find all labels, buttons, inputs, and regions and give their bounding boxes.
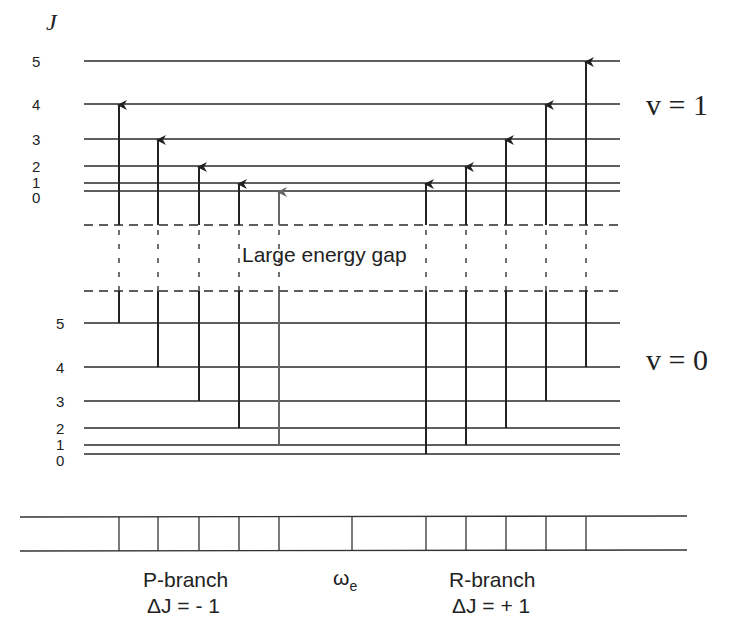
upper-j-label-5: 5 [32,53,40,70]
lower-j-label-4: 4 [56,359,64,376]
lower-j-label-5: 5 [56,315,64,332]
p-branch-rule: ΔJ = - 1 [147,594,220,617]
r-branch-transitions [426,62,586,454]
lower-state-levels: 5 4 3 2 1 0 v = 0 [56,291,708,469]
lower-j-label-1: 1 [56,436,64,453]
upper-j-label-4: 4 [32,96,40,113]
upper-state-levels: 5 4 3 2 1 0 v = 1 [32,53,708,225]
rovibrational-energy-diagram: J 5 4 3 2 1 0 v = 1 5 4 3 2 1 0 v = 0 La… [0,0,741,635]
lower-j-label-0: 0 [56,452,64,469]
lower-j-label-3: 3 [56,393,64,410]
spectrum-strip [20,516,687,551]
upper-j-label-3: 3 [32,131,40,148]
upper-j-label-2: 2 [32,158,40,175]
r-branch-label: R-branch [449,568,535,591]
upper-state-label: v = 1 [646,88,708,121]
j-axis-label: J [46,9,58,35]
spectrum-top-border [20,516,687,517]
omega-symbol: ω [333,566,349,589]
omega-subscript: e [349,578,357,594]
r-branch-rule: ΔJ = + 1 [452,594,530,617]
upper-j-label-0: 0 [32,189,40,206]
spectrum-bottom-border [20,550,687,551]
p-branch-label: P-branch [143,568,228,591]
energy-gap-label: Large energy gap [242,243,407,266]
p-branch-transitions [119,105,279,445]
lower-state-label: v = 0 [646,343,708,376]
band-origin-label: ωe [333,566,357,594]
lower-j-label-2: 2 [56,420,64,437]
